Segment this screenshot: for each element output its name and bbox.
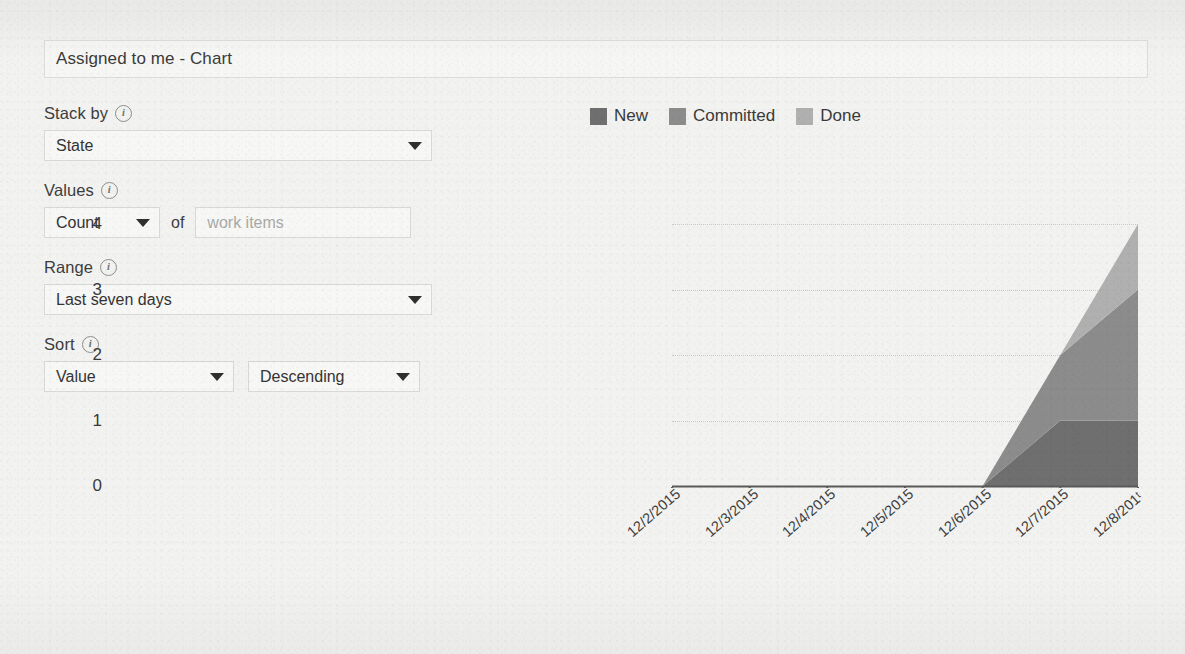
legend-swatch-icon bbox=[669, 108, 686, 125]
values-of-text: of bbox=[171, 214, 184, 232]
legend-swatch-icon bbox=[796, 108, 813, 125]
values-aggregation-dropdown[interactable]: Count bbox=[44, 207, 160, 238]
stacked-area-chart: NewCommittedDone 01234 12/2/201512/3/201… bbox=[560, 96, 1160, 626]
stack-by-value: State bbox=[56, 137, 93, 155]
sort-by-value: Value bbox=[56, 368, 96, 386]
chevron-down-icon bbox=[408, 296, 422, 304]
y-axis-tick-label: 4 bbox=[93, 214, 102, 234]
chevron-down-icon bbox=[408, 142, 422, 150]
legend-item[interactable]: Committed bbox=[669, 106, 775, 126]
values-row: Count of work items bbox=[44, 207, 444, 238]
info-icon[interactable]: i bbox=[101, 182, 118, 199]
y-axis-tick-label: 0 bbox=[93, 476, 102, 496]
legend-label: Done bbox=[820, 106, 861, 126]
sort-direction-dropdown[interactable]: Descending bbox=[248, 361, 420, 392]
chevron-down-icon bbox=[136, 219, 150, 227]
chart-title-input[interactable]: Assigned to me - Chart bbox=[44, 40, 1148, 78]
range-dropdown[interactable]: Last seven days bbox=[44, 284, 432, 315]
values-label-row: Values i bbox=[44, 181, 444, 200]
chart-config-panel: Stack by i State Values i Count of work … bbox=[44, 104, 444, 392]
stack-by-label: Stack by bbox=[44, 104, 108, 123]
chevron-down-icon bbox=[396, 373, 410, 381]
sort-label-row: Sort i bbox=[44, 335, 444, 354]
chart-series-svg bbox=[560, 224, 1160, 488]
area-series-new bbox=[672, 421, 1138, 487]
values-field-input[interactable]: work items bbox=[195, 207, 411, 238]
chart-plot-area bbox=[560, 224, 1160, 514]
legend-label: Committed bbox=[693, 106, 775, 126]
chart-title-value: Assigned to me - Chart bbox=[56, 49, 232, 69]
y-axis-tick-label: 1 bbox=[93, 411, 102, 431]
chevron-down-icon bbox=[210, 373, 224, 381]
legend-swatch-icon bbox=[590, 108, 607, 125]
sort-row: Value Descending bbox=[44, 361, 444, 392]
legend-item[interactable]: New bbox=[590, 106, 648, 126]
chart-legend: NewCommittedDone bbox=[590, 106, 872, 126]
legend-item[interactable]: Done bbox=[796, 106, 861, 126]
sort-by-dropdown[interactable]: Value bbox=[44, 361, 234, 392]
y-axis-tick-label: 2 bbox=[93, 345, 102, 365]
range-label-row: Range i bbox=[44, 258, 444, 277]
info-icon[interactable]: i bbox=[100, 259, 117, 276]
info-icon[interactable]: i bbox=[115, 105, 132, 122]
y-axis-tick-label: 3 bbox=[93, 280, 102, 300]
range-label: Range bbox=[44, 258, 93, 277]
legend-label: New bbox=[614, 106, 648, 126]
stack-by-label-row: Stack by i bbox=[44, 104, 444, 123]
values-label: Values bbox=[44, 181, 94, 200]
stack-by-dropdown[interactable]: State bbox=[44, 130, 432, 161]
x-axis-labels: 12/2/201512/3/201512/4/201512/5/201512/6… bbox=[560, 514, 1160, 634]
sort-label: Sort bbox=[44, 335, 75, 354]
sort-direction-value: Descending bbox=[260, 368, 345, 386]
values-field-placeholder: work items bbox=[207, 214, 283, 232]
range-value: Last seven days bbox=[56, 291, 172, 309]
